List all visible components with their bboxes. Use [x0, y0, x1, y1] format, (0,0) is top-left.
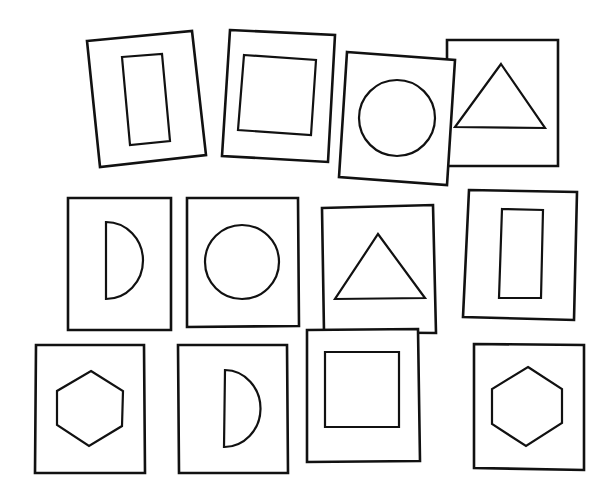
card-4-triangle: Card with triangle	[447, 40, 558, 166]
card-9-hexagon: Card with hexagon	[35, 345, 145, 473]
card-frame	[222, 30, 335, 162]
card-frame	[68, 198, 171, 330]
card-frame	[474, 344, 584, 470]
card-10-half-circle: Card with half circle	[178, 345, 288, 473]
card-7-triangle: Card with triangle	[322, 205, 436, 333]
card-2-square: Card with square	[222, 30, 335, 162]
card-frame	[35, 345, 145, 473]
card-11-square: Card with square	[307, 329, 420, 462]
card-8-tall-rectangle: Card with tall rectangle	[463, 190, 577, 320]
shape-cards-diagram: Card with triangle Card with tall rectan…	[0, 0, 613, 497]
card-6-circle: Card with circle	[187, 198, 299, 327]
card-frame	[178, 345, 288, 473]
card-5-half-circle: Card with half circle	[68, 198, 171, 330]
card-12-hexagon: Card with hexagon	[474, 344, 584, 470]
card-1-tall-rectangle: Card with tall rectangle	[87, 31, 206, 167]
card-frame	[322, 205, 436, 333]
card-frame	[447, 40, 558, 166]
card-frame	[339, 52, 455, 185]
card-3-circle: Card with circle	[339, 52, 455, 185]
card-frame	[187, 198, 299, 327]
card-frame	[87, 31, 206, 167]
